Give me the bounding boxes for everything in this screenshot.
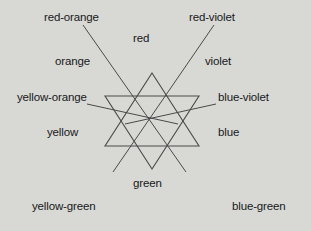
label-yellow-green: yellow-green [32, 200, 95, 213]
label-green: green [133, 177, 162, 190]
hexagram-svg [0, 0, 311, 231]
label-yellow: yellow [47, 126, 78, 139]
diagram-canvas: red-orange red-violet red orange violet … [0, 0, 311, 231]
label-red-violet: red-violet [189, 11, 235, 24]
label-red-orange: red-orange [44, 11, 99, 24]
leader-line-yellow-orange [87, 104, 178, 124]
leader-line-red-orange [83, 25, 186, 172]
label-blue-violet: blue-violet [218, 91, 269, 104]
label-orange: orange [55, 55, 90, 68]
label-blue: blue [218, 126, 239, 139]
leader-line-red-violet [113, 25, 214, 172]
downward-triangle [105, 96, 199, 169]
leader-line-blue-violet [125, 104, 216, 124]
label-blue-green: blue-green [232, 200, 286, 213]
upward-triangle [105, 73, 199, 146]
label-red: red [133, 32, 149, 45]
label-yellow-orange: yellow-orange [17, 91, 87, 104]
label-violet: violet [205, 55, 231, 68]
